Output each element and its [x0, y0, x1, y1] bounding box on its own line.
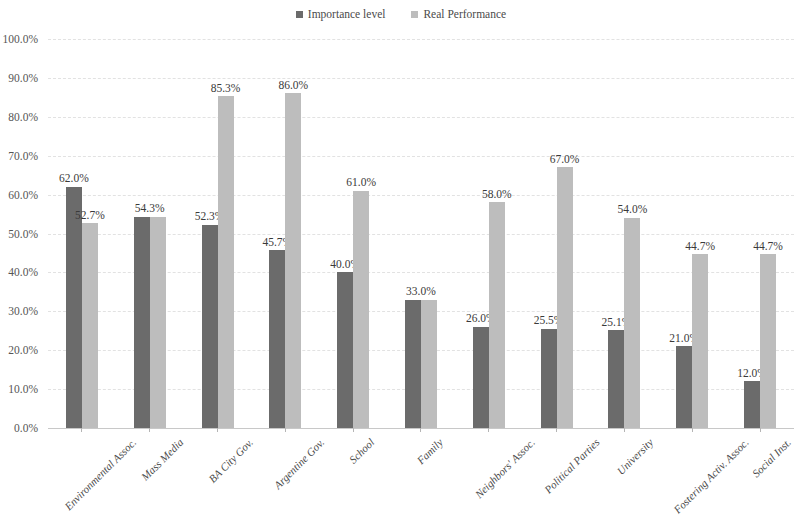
bar-importance-level: 54.3%	[134, 217, 150, 428]
bar-chart: Importance level Real Performance 100.0%…	[0, 0, 802, 529]
x-axis-tick-label: School	[347, 436, 377, 466]
bar-real-performance: 61.0%	[353, 191, 369, 428]
x-axis-label-cell: Argentine Gov.	[251, 434, 319, 529]
bar-importance-level: 40.0%	[337, 272, 353, 428]
x-axis-tick-mark	[488, 428, 489, 432]
x-axis-label-cell: School	[319, 434, 387, 529]
bar-group: 12.0%44.7%	[726, 39, 794, 428]
x-axis-tick-labels: Environmental Assoc.Mass MediaBA City Go…	[48, 434, 794, 529]
bar-real-performance: 44.7%	[760, 254, 776, 428]
x-axis-tick-mark	[149, 428, 150, 432]
x-axis-tick-label: Social Inst.	[750, 436, 793, 479]
x-axis-tick-mark	[760, 428, 761, 432]
x-axis-tick-mark	[217, 428, 218, 432]
x-axis-tick-label: BA City Gov.	[206, 436, 255, 485]
bar-value-label: 67.0%	[550, 154, 580, 166]
x-axis-tick-mark	[420, 428, 421, 432]
y-axis-tick-label: 100.0%	[0, 33, 38, 45]
x-axis-tick-mark	[556, 428, 557, 432]
bar-value-label: 33.0%	[406, 286, 436, 298]
bar-group: 25.1%54.0%	[591, 39, 659, 428]
y-axis-tick-label: 30.0%	[0, 305, 38, 317]
bar-importance-level: 25.5%	[541, 329, 557, 428]
x-axis-tick-mark	[624, 428, 625, 432]
y-axis-tick-label: 10.0%	[0, 383, 38, 395]
x-axis-label-cell: Social Inst.	[726, 434, 794, 529]
x-axis-tick-label: Mass Media	[139, 436, 186, 483]
bar-value-label: 85.3%	[211, 83, 241, 95]
bar-importance-level: 26.0%	[473, 327, 489, 428]
legend-swatch-real-performance	[411, 11, 418, 18]
bar-value-label: 52.7%	[75, 210, 105, 222]
bar-real-performance: 33.0%	[421, 300, 437, 428]
x-axis-label-cell: University	[591, 434, 659, 529]
bar-real-performance: 54.0%	[624, 218, 640, 428]
x-axis-tick-label: Family	[415, 436, 446, 467]
bar-group: 40.0%61.0%	[319, 39, 387, 428]
bar-value-label: 44.7%	[753, 241, 783, 253]
y-axis-tick-label: 40.0%	[0, 266, 38, 278]
bar-group: 52.3%85.3%	[184, 39, 252, 428]
bar-value-label: 61.0%	[346, 177, 376, 189]
bar-group: 33.0%33.0%33.0%	[387, 39, 455, 428]
x-axis-tick-mark	[81, 428, 82, 432]
bar-value-label: 54.3%	[135, 203, 165, 215]
chart-legend: Importance level Real Performance	[0, 4, 802, 24]
bar-group: 54.3%54.3%54.3%	[116, 39, 184, 428]
x-axis-label-cell: Environmental Assoc.	[48, 434, 116, 529]
x-axis-label-cell: Political Parties	[523, 434, 591, 529]
bar-groups: 62.0%52.7%54.3%54.3%54.3%52.3%85.3%45.7%…	[48, 39, 794, 428]
y-axis-tick-label: 60.0%	[0, 189, 38, 201]
bar-importance-level: 12.0%	[744, 381, 760, 428]
bar-value-label: 44.7%	[685, 241, 715, 253]
y-axis-tick-label: 20.0%	[0, 344, 38, 356]
bar-group: 21.0%44.7%	[658, 39, 726, 428]
plot-area: 100.0%90.0%80.0%70.0%60.0%50.0%40.0%30.0…	[48, 39, 794, 428]
y-axis-tick-label: 0.0%	[0, 422, 38, 434]
y-axis-tick-label: 50.0%	[0, 228, 38, 240]
bar-real-performance: 52.7%	[82, 223, 98, 428]
bar-value-label: 62.0%	[59, 173, 89, 185]
x-axis-label-cell: BA City Gov.	[184, 434, 252, 529]
x-axis-tick-mark	[285, 428, 286, 432]
bar-importance-level: 62.0%	[66, 187, 82, 428]
bar-group: 25.5%67.0%	[523, 39, 591, 428]
bar-importance-level: 45.7%	[269, 250, 285, 428]
x-axis-label-cell: Neighbors' Assoc.	[455, 434, 523, 529]
bar-real-performance: 86.0%	[285, 93, 301, 428]
x-axis-tick-mark	[353, 428, 354, 432]
bar-importance-level: 25.1%	[608, 330, 624, 428]
bar-real-performance: 67.0%	[557, 167, 573, 428]
legend-item-real-performance: Real Performance	[411, 8, 506, 20]
x-axis-label-cell: Family	[387, 434, 455, 529]
bar-real-performance: 54.3%	[150, 217, 166, 428]
bar-group: 62.0%52.7%	[48, 39, 116, 428]
legend-label-real-performance: Real Performance	[423, 8, 506, 20]
y-axis-tick-label: 80.0%	[0, 111, 38, 123]
bar-value-label: 54.0%	[618, 204, 648, 216]
x-axis-label-cell: Mass Media	[116, 434, 184, 529]
y-axis-tick-label: 70.0%	[0, 150, 38, 162]
bar-importance-level: 52.3%	[202, 225, 218, 428]
x-axis-tick-label: University	[615, 436, 656, 477]
bar-importance-level: 33.0%	[405, 300, 421, 428]
bar-real-performance: 58.0%	[489, 202, 505, 428]
legend-label-importance-level: Importance level	[308, 8, 386, 20]
x-axis-label-cell: Fostering Activ. Assoc.	[658, 434, 726, 529]
legend-item-importance-level: Importance level	[296, 8, 386, 20]
bar-real-performance: 85.3%	[218, 96, 234, 428]
bar-value-label: 58.0%	[482, 189, 512, 201]
bar-value-label: 86.0%	[278, 80, 308, 92]
bar-importance-level: 21.0%	[676, 346, 692, 428]
x-axis-tick-mark	[692, 428, 693, 432]
bar-group: 45.7%86.0%	[251, 39, 319, 428]
y-axis-tick-label: 90.0%	[0, 72, 38, 84]
legend-swatch-importance-level	[296, 11, 303, 18]
bar-group: 26.0%58.0%	[455, 39, 523, 428]
bar-real-performance: 44.7%	[692, 254, 708, 428]
